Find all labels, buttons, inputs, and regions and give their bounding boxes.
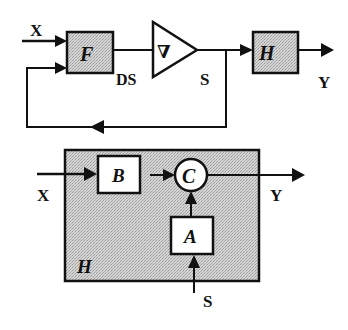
- bottom-diagram: H X B C Y A S: [37, 150, 305, 311]
- h-input-arrow-icon: [240, 44, 253, 56]
- y-label-bottom: Y: [270, 186, 282, 205]
- y-output-arrow-icon-bottom: [292, 168, 305, 182]
- y-output-arrow-icon: [321, 43, 334, 57]
- c-node-label: C: [182, 165, 196, 187]
- f-block-label: F: [79, 43, 94, 65]
- x-input-arrow-icon: [55, 35, 67, 47]
- s-label-bottom: S: [203, 292, 212, 311]
- s-label-top: S: [200, 70, 209, 89]
- top-diagram: X F DS ∇ S H Y: [22, 21, 334, 134]
- y-label-top: Y: [318, 73, 330, 92]
- x-label-bottom: X: [37, 186, 50, 205]
- feedback-loop-line: [27, 50, 226, 127]
- h-container: [65, 150, 259, 281]
- h-container-label: H: [76, 256, 93, 277]
- amplifier-symbol: ∇: [157, 42, 171, 62]
- feedback-input-arrow-icon: [55, 62, 67, 74]
- x-label-top: X: [30, 21, 43, 40]
- b-block-label: B: [111, 165, 125, 186]
- h-block-label: H: [258, 42, 276, 64]
- block-diagram: X F DS ∇ S H Y H X: [0, 0, 348, 330]
- a-block-label: A: [183, 226, 197, 247]
- feedback-arrow-icon: [90, 120, 104, 134]
- ds-label: DS: [116, 71, 137, 88]
